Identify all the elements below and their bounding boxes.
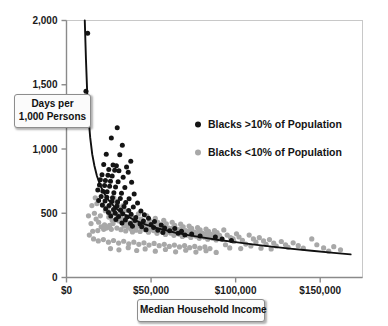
data-point [91,236,96,241]
data-point [113,184,118,189]
data-point [152,241,157,246]
legend-marker [195,150,201,156]
data-point [111,190,116,195]
data-point [157,243,162,248]
scatter-plot: 05001,0001,5002,000 $0$50,000$100,000$15… [0,0,388,326]
data-point [95,188,100,193]
data-point [221,227,226,232]
data-point [116,247,121,252]
data-point [173,249,178,254]
data-point [177,244,182,249]
data-point [116,240,121,245]
data-point [129,180,134,185]
data-point [88,221,93,226]
data-point [126,245,131,250]
data-point [101,237,106,242]
data-point [122,185,127,190]
data-point [144,227,149,232]
data-point [142,212,147,217]
data-point [132,191,137,196]
data-point [129,212,134,217]
data-point [109,136,114,141]
data-point [130,229,135,234]
data-point [112,168,117,173]
data-point [116,168,121,173]
data-point [309,236,314,241]
data-point [143,246,148,251]
data-point [146,243,151,248]
data-point [108,246,113,251]
data-point [108,179,113,184]
legend-label: Blacks <10% of Population [208,146,342,158]
data-point [121,239,126,244]
x-axis-ticks [67,278,321,283]
data-point [331,244,336,249]
data-point [131,240,136,245]
data-point [101,227,106,232]
data-point [296,243,301,248]
data-point [279,239,284,244]
data-point [117,152,122,157]
data-point [238,246,243,251]
y-axis-ticks [62,21,67,278]
y-axis-title-box: Days per 1,000 Persons [14,94,91,128]
data-point [105,173,110,178]
data-point [120,143,125,148]
y-tick-label: 500 [41,208,58,219]
data-point [321,245,326,250]
x-axis-tick-labels: $0$50,000$100,000$150,000 [61,285,342,296]
data-point [102,183,107,188]
data-point [172,226,177,231]
data-point [119,220,124,225]
data-point [136,242,141,247]
data-point [267,237,272,242]
data-point [126,170,131,175]
data-point [134,248,139,253]
data-point [118,227,123,232]
data-point [114,163,119,168]
data-point [314,242,319,247]
y-tick-label: 2,000 [32,15,57,26]
data-point [95,228,100,233]
data-point [115,125,120,130]
x-tick-label: $150,000 [299,285,341,296]
data-point [119,191,124,196]
data-point [113,217,118,222]
data-point [182,243,187,248]
data-point [107,184,112,189]
data-point [162,242,167,247]
y-tick-label: 1,500 [32,79,57,90]
x-tick-label: $0 [61,285,73,296]
data-point [116,179,121,184]
data-point [96,220,101,225]
data-point [128,159,133,164]
data-point [135,200,140,205]
data-point [197,246,202,251]
x-tick-label: $100,000 [215,285,257,296]
data-point [227,245,232,250]
data-point [111,238,116,243]
data-point [89,203,94,208]
data-point [193,249,198,254]
y-axis-title-line1: Days per [17,98,88,111]
data-point [291,240,296,245]
data-point [87,232,92,237]
data-point [106,167,111,172]
data-point [98,213,103,218]
data-point [214,250,219,255]
data-point [247,232,252,237]
data-point [100,202,105,207]
data-point [96,238,101,243]
data-point [121,175,126,180]
legend-label: Blacks >10% of Population [208,118,342,130]
data-point [163,247,168,252]
data-point [192,244,197,249]
data-point [92,211,97,216]
data-point [108,214,113,219]
data-point [103,178,108,183]
data-point [223,242,228,247]
y-tick-label: 1,000 [32,144,57,155]
data-point [138,208,143,213]
x-axis-title-box: Median Household Income [137,299,265,322]
data-point [104,152,109,157]
